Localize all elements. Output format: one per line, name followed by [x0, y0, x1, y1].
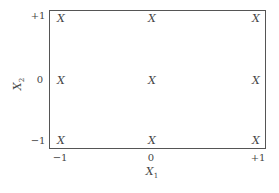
design-point: X	[252, 135, 260, 146]
design-point: X	[148, 75, 156, 86]
design-point: X	[57, 75, 65, 86]
design-point: X	[148, 13, 156, 24]
design-point: X	[252, 75, 260, 86]
y-tick-label: −1	[31, 136, 46, 146]
x-axis-label: X1	[146, 166, 158, 182]
x-tick-label: −1	[53, 153, 68, 163]
design-point: X	[57, 135, 65, 146]
y-tick-label: 0	[37, 75, 43, 85]
design-point: X	[252, 13, 260, 24]
x-tick-label: +1	[251, 153, 266, 163]
y-axis-label: X2	[12, 78, 28, 90]
design-point: X	[148, 135, 156, 146]
y-tick-label: +1	[31, 11, 46, 21]
x-tick-label: 0	[148, 153, 154, 163]
design-region-box	[49, 10, 266, 149]
design-point: X	[57, 13, 65, 24]
